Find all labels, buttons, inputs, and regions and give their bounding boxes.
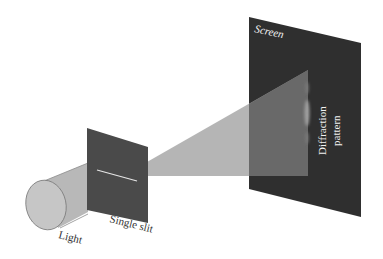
diffraction-pattern-label-line1: Diffraction [316, 106, 328, 155]
light-label: Light [58, 228, 84, 245]
diffraction-diagram: Screen Diffraction pattern Single slit L… [0, 0, 383, 259]
light-beam-cylinder [21, 163, 88, 234]
diffraction-pattern-label-line2: pattern [330, 115, 342, 146]
diagram-svg: Screen Diffraction pattern Single slit L… [0, 0, 383, 259]
